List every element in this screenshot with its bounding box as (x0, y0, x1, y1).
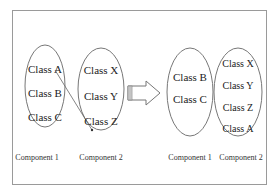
after-component1-ellipse (167, 48, 213, 136)
before-c1-class-a: Class A (28, 63, 62, 75)
before-component1-label: Component 1 (15, 153, 58, 162)
after-c2-class-y: Class Y (222, 80, 253, 91)
after-component1-label: Component 1 (168, 153, 211, 162)
after-component2-label: Component 2 (219, 153, 262, 162)
transition-arrow-icon (128, 81, 160, 105)
before-component2-label: Component 2 (79, 153, 122, 162)
before-c1-class-c: Class C (28, 111, 62, 123)
before-c2-class-x: Class X (84, 64, 119, 76)
before-c1-class-b: Class B (28, 87, 62, 99)
after-c2-class-a: Class A (223, 123, 254, 134)
after-c1-class-b: Class B (173, 71, 207, 83)
after-c2-class-x: Class X (222, 58, 253, 69)
before-c2-class-z: Class Z (84, 115, 117, 127)
after-c2-class-z: Class Z (223, 102, 253, 113)
before-c2-class-y: Class Y (84, 90, 118, 102)
move-arrow-head (91, 129, 93, 131)
after-c1-class-c: Class C (173, 93, 207, 105)
